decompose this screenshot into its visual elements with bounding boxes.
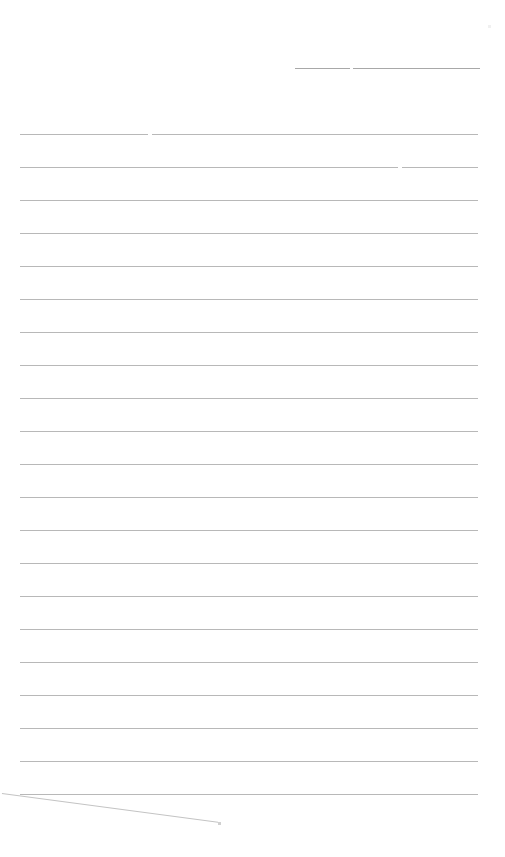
ruled-line (20, 266, 478, 267)
ruled-line (20, 794, 478, 795)
header-line-right (353, 68, 480, 69)
ruled-line (20, 398, 478, 399)
ruled-line (20, 629, 478, 630)
ruled-line (20, 299, 478, 300)
header-line-left (295, 68, 350, 69)
ruled-line (20, 695, 478, 696)
ruled-line (20, 134, 148, 135)
ruled-line (20, 662, 478, 663)
ruled-line (20, 200, 478, 201)
ruled-line (20, 332, 478, 333)
stray-pen-mark (2, 793, 218, 823)
ruled-line (152, 134, 478, 135)
ruled-line (20, 497, 478, 498)
ruled-line (402, 167, 478, 168)
ruled-line (20, 365, 478, 366)
ruled-line (20, 530, 478, 531)
ruled-line (20, 464, 478, 465)
stray-dot (218, 822, 221, 825)
ruled-line (20, 431, 478, 432)
ruled-line (20, 563, 478, 564)
ruled-line (20, 233, 478, 234)
scan-speck (488, 25, 491, 28)
ruled-line (20, 761, 478, 762)
lined-document-page (0, 0, 505, 857)
ruled-line (20, 167, 398, 168)
ruled-line (20, 728, 478, 729)
ruled-line (20, 596, 478, 597)
